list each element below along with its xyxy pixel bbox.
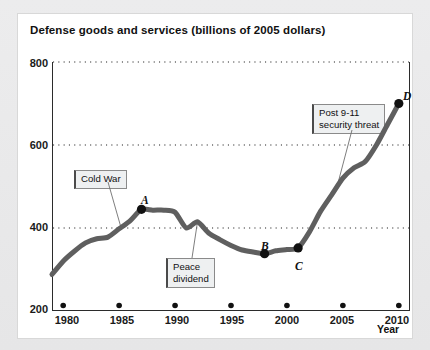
marker-label-d: D [403,90,411,102]
x-tick-1980: 1980 [47,314,87,326]
x-tick-2005: 2005 [322,314,362,326]
y-tick-200: 200 [14,303,48,315]
y-tick-800: 800 [14,57,48,69]
page-title: Defense goods and services (billions of … [30,24,325,36]
marker-label-a: A [141,194,149,206]
x-tick-1990: 1990 [157,314,197,326]
y-tick-400: 400 [14,221,48,233]
annotation-cold-war: Cold War [74,170,127,189]
marker-label-c: C [295,260,303,272]
annotation-post-911: Post 9-11 security threat [312,104,385,134]
annotation-peace-dividend: Peace dividend [166,258,215,288]
chart-figure: Defense goods and services (billions of … [0,0,430,350]
x-tick-2000: 2000 [267,314,307,326]
marker-label-b: B [261,240,269,252]
x-tick-1985: 1985 [102,314,142,326]
x-tick-1995: 1995 [212,314,252,326]
y-tick-600: 600 [14,139,48,151]
x-axis-title: Year [377,323,399,335]
